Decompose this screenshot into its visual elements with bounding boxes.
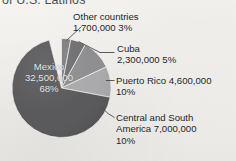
slice-label-central-south-america-percent: 10% (116, 135, 197, 146)
slice-label-mexico-value: 32,500,000 (16, 72, 82, 83)
slice-label-central-south-america-name: Central and South (116, 112, 197, 123)
slice-label-central-south-america: Central and South America 7,000,000 10% (116, 112, 197, 146)
slice-label-central-south-america-value: America 7,000,000 (116, 123, 197, 134)
figure-container: of U.S. Latinos Mexico 32, (0, 0, 236, 161)
slice-label-puerto-rico-percent: 10% (116, 86, 211, 97)
slice-label-mexico-name: Mexico (16, 61, 82, 72)
slice-label-cuba-name: Cuba (117, 43, 176, 54)
slice-label-other-countries: Other countries 1,700,000 3% (73, 11, 139, 34)
slice-label-puerto-rico: Puerto Rico 4,600,000 10% (116, 75, 211, 98)
slice-label-mexico-percent: 68% (16, 83, 82, 94)
slice-label-cuba-value: 2,300,000 5% (117, 54, 176, 65)
slice-label-mexico: Mexico 32,500,000 68% (16, 61, 82, 95)
slice-label-cuba: Cuba 2,300,000 5% (117, 43, 176, 66)
slice-label-other-countries-value: 1,700,000 3% (73, 22, 139, 33)
slice-label-puerto-rico-name: Puerto Rico 4,600,000 (116, 75, 211, 86)
slice-label-other-countries-name: Other countries (73, 11, 139, 22)
